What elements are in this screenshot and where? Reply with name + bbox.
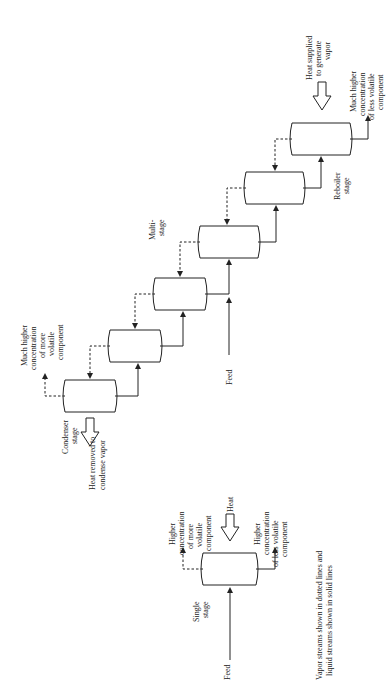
condenser-heat-label: Heat removed tocondense vapor (88, 437, 107, 490)
reboiler-bottom-product-label: Much higherconcentrationof less volatile… (349, 71, 385, 120)
reboiler-heat-label: Heat suppliedto generatevapor (305, 36, 332, 80)
multi-stage-label: Multi-stage (148, 219, 166, 240)
single-top-product-label: Higherconcentrationof morevolatilecompon… (168, 511, 213, 555)
condenser-stage-label: Condenserstage (61, 419, 79, 454)
single-feed-label: Feed (223, 664, 232, 680)
reboiler-heat-arrow (313, 82, 331, 110)
top-product-arrow (45, 376, 65, 396)
single-heat-label: Heat (226, 496, 235, 512)
legend-label: Vapor streams shown in dotted lines andl… (315, 551, 334, 680)
distillation-diagram: Feed Singlestage Higherconcentrationof m… (0, 0, 392, 689)
multi-stage-vessels (63, 123, 352, 412)
condenser-top-product-label: Much higherconcentrationof morevolatilec… (20, 324, 65, 370)
multi-feed-label: Feed (225, 369, 234, 385)
single-stage-label: Singlestage (192, 601, 210, 622)
reboiler-stage-label: Reboilerstage (333, 172, 351, 200)
single-heat-arrow (221, 514, 239, 541)
bottom-product-arrow (350, 118, 368, 139)
single-vapor-out (183, 550, 203, 569)
single-stage-vessel (201, 553, 258, 585)
single-bottom-product-label: Higherconcentrationof less volatilecompo… (253, 511, 289, 567)
